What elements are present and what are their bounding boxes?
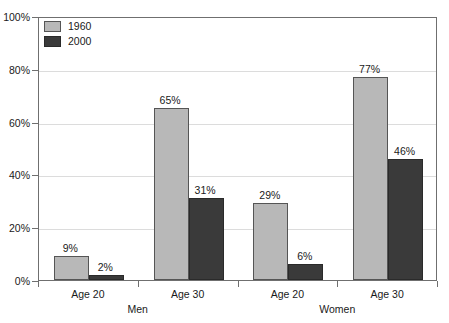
x-axis-tick-mark — [437, 281, 438, 287]
bar-1960-age-30-1 — [154, 108, 189, 280]
legend-label: 2000 — [68, 36, 91, 47]
bar-2000-age-20-0 — [89, 275, 124, 280]
chart-legend: 19602000 — [44, 21, 91, 47]
x-axis-tick-mark — [337, 281, 338, 287]
x-axis-group-label: Men — [128, 303, 148, 315]
x-axis-group-label: Women — [319, 303, 355, 315]
x-axis-category-label: Age 30 — [171, 288, 204, 300]
y-axis-tick-label: 60% — [0, 117, 30, 129]
x-axis-category-label: Age 30 — [370, 288, 403, 300]
bar-1960-age-20-0 — [54, 256, 89, 280]
bar-chart: 100%80%60%40%20%0% 9%2%Age 2065%31%Age 3… — [0, 0, 449, 323]
legend-swatch-icon — [44, 36, 61, 47]
bar-2000-age-30-1 — [189, 198, 224, 280]
bar-2000-age-20-2 — [288, 264, 323, 280]
x-axis-category-label: Age 20 — [271, 288, 304, 300]
x-axis-category-label: Age 20 — [71, 288, 104, 300]
bar-2000-age-30-3 — [388, 159, 423, 280]
y-axis-tick-label: 20% — [0, 222, 30, 234]
y-axis-tick-mark — [32, 281, 38, 282]
bar-1960-age-30-3 — [353, 77, 388, 280]
legend-label: 1960 — [68, 21, 91, 32]
x-axis-tick-mark — [138, 281, 139, 287]
y-axis-tick-label: 0% — [0, 275, 30, 287]
legend-swatch-icon — [44, 21, 61, 32]
gridline — [39, 71, 436, 72]
y-axis-tick-label: 100% — [0, 11, 30, 23]
plot-area — [38, 17, 437, 281]
bar-1960-age-20-2 — [253, 203, 288, 280]
legend-item-2000: 2000 — [44, 36, 91, 47]
legend-item-1960: 1960 — [44, 21, 91, 32]
y-axis-tick-label: 40% — [0, 169, 30, 181]
x-axis-tick-mark — [38, 281, 39, 287]
x-axis-tick-mark — [238, 281, 239, 287]
y-axis-tick-label: 80% — [0, 64, 30, 76]
